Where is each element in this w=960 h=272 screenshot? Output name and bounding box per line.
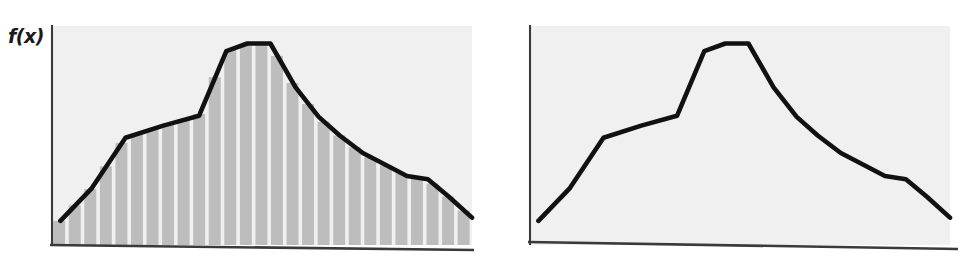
riemann-rectangle [147, 129, 159, 245]
riemann-rectangle [209, 77, 221, 245]
riemann-rectangle [240, 44, 252, 245]
riemann-rectangle [162, 124, 174, 245]
riemann-rectangle [271, 56, 283, 245]
riemann-rectangle [224, 50, 236, 245]
riemann-rectangle [53, 221, 65, 245]
riemann-rectangle [100, 166, 112, 245]
riemann-rectangle [380, 165, 392, 245]
riemann-rectangle [302, 104, 314, 245]
riemann-rectangle [318, 122, 330, 245]
riemann-rectangle [427, 184, 439, 245]
chart-panel-left: f(x) [0, 0, 480, 272]
chart-panel-right: f(x) [480, 0, 960, 272]
riemann-rectangle [333, 136, 345, 245]
riemann-rectangle [364, 157, 376, 245]
riemann-sum-plot-svg [0, 0, 480, 272]
chart-canvas-left [0, 0, 480, 272]
plain-curve-plot-svg [480, 0, 960, 272]
riemann-rectangle [115, 143, 127, 245]
riemann-rectangle [193, 114, 205, 245]
x-axis-line-left [50, 245, 474, 250]
riemann-rectangle [287, 83, 299, 245]
riemann-rectangle [255, 44, 267, 245]
chart-canvas-right [480, 0, 960, 272]
riemann-rectangle [395, 173, 407, 245]
riemann-rectangle [178, 120, 190, 245]
riemann-rectangle [442, 197, 454, 245]
riemann-rectangle [84, 189, 96, 245]
riemann-rectangle [411, 178, 423, 245]
riemann-rectangle [349, 147, 361, 245]
riemann-rectangle [131, 134, 143, 245]
plot-background-right [530, 26, 950, 245]
figure-riemann-sum-comparison: f(x) f(x) [0, 0, 960, 272]
